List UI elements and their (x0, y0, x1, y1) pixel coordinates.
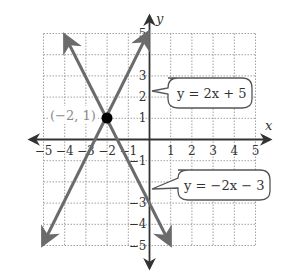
x-tick-label: 2 (188, 144, 196, 158)
line-y-2x-plus-5 (43, 33, 148, 244)
x-axis-label: x (265, 118, 273, 133)
y-tick-label: 3 (139, 69, 147, 83)
intersection-label: (−2, 1) (50, 108, 96, 123)
y-tick-label: 2 (139, 90, 147, 104)
intersection-point (102, 113, 113, 124)
y-tick-label: 1 (139, 111, 147, 125)
y-tick-label: −5 (129, 239, 147, 253)
y-axis-label: y (155, 11, 164, 26)
x-tick-label: 4 (230, 144, 238, 158)
callout-line2-text: y = −2x − 3 (183, 178, 264, 193)
y-tick-label: −3 (129, 196, 147, 210)
y-tick-label: −4 (129, 217, 147, 231)
callout-line1-text: y = 2x + 5 (176, 86, 247, 101)
x-tick-label: 5 (252, 144, 260, 158)
x-tick-labels: −5−4−3−2−112345 (35, 144, 260, 158)
callout-line1: y = 2x + 5 (152, 78, 252, 108)
x-tick-label: −2 (98, 144, 116, 158)
callout-line2: y = −2x − 3 (152, 170, 270, 200)
coordinate-graph: x y −5−4−3−2−112345 5321−1−3−4−5 (−2, 1)… (0, 0, 284, 276)
x-tick-label: −4 (56, 144, 74, 158)
x-tick-label: −5 (35, 144, 53, 158)
x-tick-label: 1 (167, 144, 175, 158)
x-tick-label: 3 (209, 144, 217, 158)
